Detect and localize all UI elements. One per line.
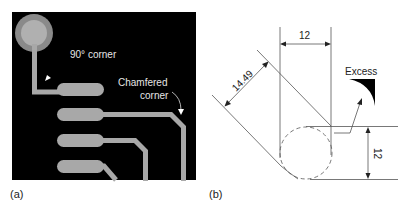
- lower-diagonal-line: [212, 95, 281, 166]
- label-corner: corner: [140, 90, 169, 101]
- via-pad-center: [21, 20, 47, 46]
- panel-a-label: (a): [10, 188, 23, 200]
- panel-b-label: (b): [209, 188, 222, 200]
- right-dim-arrow-bottom-icon: [366, 173, 371, 179]
- smd-pad-4: [57, 160, 104, 173]
- panel-a: 90° corner Chamfered corner (a): [10, 12, 196, 200]
- panel-b: [212, 27, 398, 180]
- top-dim-arrow-right-icon: [325, 42, 331, 47]
- label-90-corner: 90° corner: [70, 49, 117, 60]
- smd-pad-3: [57, 134, 104, 147]
- right-dimension-value: 12: [372, 148, 383, 160]
- right-dim-arrow-top-icon: [366, 127, 371, 133]
- figure-canvas: 90° corner Chamfered corner (a): [0, 0, 412, 210]
- upper-diagonal-line: [257, 50, 331, 126]
- excess-leader-line: [334, 103, 360, 133]
- diagonal-dimension-value: 14.49: [230, 68, 256, 94]
- excess-label: Excess: [345, 66, 377, 77]
- top-dim-arrow-left-icon: [280, 42, 286, 47]
- excess-arrowhead-icon: [357, 98, 362, 105]
- smd-pad-1: [57, 83, 104, 96]
- label-chamfered: Chamfered: [118, 77, 167, 88]
- top-dimension-value: 12: [299, 30, 311, 41]
- smd-pad-2: [57, 108, 104, 121]
